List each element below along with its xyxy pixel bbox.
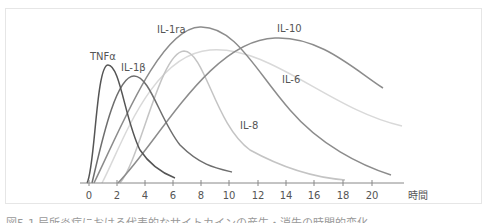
x-tick-6: 6 — [170, 190, 176, 201]
label-il6: IL-6 — [282, 74, 300, 85]
series-il8-line — [120, 51, 345, 183]
x-axis-label: 時間 — [408, 190, 428, 201]
x-tick-16: 16 — [308, 190, 321, 201]
label-il8: IL-8 — [240, 120, 258, 131]
label-il10: IL-10 — [277, 23, 302, 34]
x-tick-4: 4 — [142, 190, 148, 201]
x-tick-0: 0 — [86, 190, 92, 201]
x-tick-20: 20 — [366, 190, 379, 201]
label-il1ra: IL-1ra — [157, 24, 186, 35]
x-tick-10: 10 — [223, 190, 236, 201]
x-tick-8: 8 — [198, 190, 204, 201]
x-tick-14: 14 — [280, 190, 293, 201]
x-tick-2: 2 — [114, 190, 120, 201]
cytokine-time-course-chart: 0 2 4 6 8 10 12 14 16 18 20 時間 TNFα IL-1… — [0, 0, 490, 223]
x-tick-12: 12 — [252, 190, 265, 201]
figure-caption: 図5-1 局所炎症における代表的なサイトカインの産生・消失の時間的変化 — [6, 214, 368, 223]
label-tnfa: TNFα — [89, 51, 116, 62]
x-tick-18: 18 — [337, 190, 350, 201]
label-il1b: IL-1β — [121, 62, 146, 73]
series-tnfa-line — [87, 65, 175, 183]
series-il1b-line — [92, 76, 232, 183]
